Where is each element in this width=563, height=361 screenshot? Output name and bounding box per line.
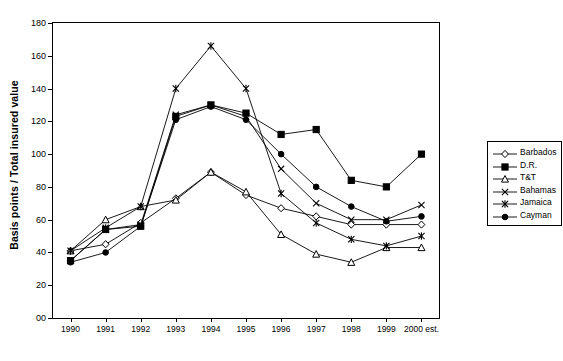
legend-marker-icon <box>492 146 518 158</box>
x-axis-tick-label: 1995 <box>237 324 256 334</box>
x-axis-tick-label: 1993 <box>166 324 185 334</box>
x-axis-tick-label: 1992 <box>131 324 150 334</box>
x-axis-tick-label: 2000 est. <box>404 324 439 334</box>
x-axis-tick-label: 1996 <box>272 324 291 334</box>
legend-item-label: Jamaica <box>520 197 552 207</box>
plot-area <box>52 22 440 319</box>
legend-item-barbados[interactable]: Barbados <box>492 146 556 159</box>
x-axis-tick-label: 1990 <box>61 324 80 334</box>
x-axis-tick-label: 1999 <box>377 324 396 334</box>
legend-marker-icon <box>492 196 518 208</box>
legend-marker-icon <box>492 171 518 183</box>
y-axis-tick-label: 120 <box>16 116 46 126</box>
chart-container: Basis points / Total insured value 00204… <box>0 0 563 361</box>
y-axis-tick-label: 160 <box>16 51 46 61</box>
x-axis-tick-label: 1997 <box>307 324 326 334</box>
series-d-r <box>67 102 424 264</box>
x-axis-tick-label: 1994 <box>201 324 220 334</box>
y-axis-tick-label: 40 <box>16 247 46 257</box>
legend-item-jamaica[interactable]: Jamaica <box>492 196 556 209</box>
legend-item-label: Barbados <box>520 147 556 157</box>
legend-item-cayman[interactable]: Cayman <box>492 209 556 222</box>
series-svg <box>53 23 439 318</box>
y-axis-tick-label: 180 <box>16 18 46 28</box>
legend-item-label: T&T <box>520 172 536 182</box>
y-axis-tick-label: 140 <box>16 84 46 94</box>
y-axis-tick-label: 60 <box>16 215 46 225</box>
legend-item-label: D.R. <box>520 160 537 170</box>
legend-marker-icon <box>492 209 518 221</box>
series-t-t <box>67 169 425 266</box>
legend-item-d-r[interactable]: D.R. <box>492 159 556 172</box>
x-axis-tick-label: 1998 <box>342 324 361 334</box>
legend-item-bahamas[interactable]: Bahamas <box>492 184 556 197</box>
y-axis-tick-label: 20 <box>16 280 46 290</box>
y-axis-tick-label: 100 <box>16 149 46 159</box>
series-bahamas <box>67 102 424 264</box>
legend: BarbadosD.R.T&TBahamasJamaicaCayman <box>487 141 562 226</box>
legend-item-t-t[interactable]: T&T <box>492 171 556 184</box>
x-axis-tick-label: 1991 <box>96 324 115 334</box>
legend-marker-icon <box>492 184 518 196</box>
series-jamaica <box>67 42 424 254</box>
legend-marker-icon <box>492 159 518 171</box>
legend-item-label: Cayman <box>520 210 552 220</box>
y-axis-tick-label: 00 <box>16 313 46 323</box>
legend-item-label: Bahamas <box>520 185 556 195</box>
y-axis-tick-label: 80 <box>16 182 46 192</box>
